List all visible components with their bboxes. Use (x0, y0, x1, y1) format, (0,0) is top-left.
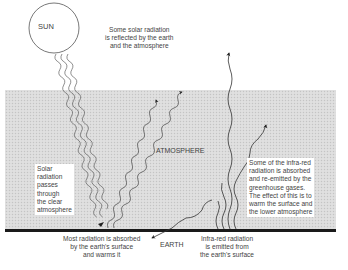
atmosphere-label: ATMOSPHERE (156, 147, 205, 155)
passes-line: atmosphere (37, 206, 72, 214)
sun-label: SUN (38, 22, 54, 31)
passes-line: Solar (37, 165, 72, 173)
passes-line: radiation (37, 173, 72, 181)
passes-line: through (37, 190, 72, 198)
greenhouse-line: and re-emitted by the (249, 175, 312, 183)
greenhouse-line: The effect of this is to (249, 192, 312, 200)
greenhouse-line: greenhouse gases. (249, 184, 312, 192)
greenhouse-line: the lower atmosphere (249, 208, 312, 216)
reflected-line: is reflected by the earth (105, 34, 174, 42)
passes-line: the clear (37, 198, 72, 206)
radiation-arrows (0, 0, 348, 270)
greenhouse-line: Some of the infra-red (249, 159, 312, 167)
absorbed-line: by the earth's surface (63, 243, 140, 251)
earth-label: EARTH (160, 241, 184, 249)
greenhouse-line: radiation is absorbed (249, 167, 312, 175)
infrared-line: Infra-red radiation (200, 235, 254, 243)
reflected-line: and the atmosphere (105, 42, 174, 50)
reflected-caption: Some solar radiation is reflected by the… (105, 26, 174, 51)
absorbed-line: Most radiation is absorbed (63, 235, 140, 243)
infrared-line: is emitted from (200, 243, 254, 251)
absorbed-caption: Most radiation is absorbed by the earth'… (63, 235, 140, 260)
greenhouse-line: warm the surface and (249, 200, 312, 208)
greenhouse-caption: Some of the infra-red radiation is absor… (247, 158, 314, 217)
passes-caption: Solar radiation passes through the clear… (35, 164, 74, 215)
infrared-caption: Infra-red radiation is emitted from the … (200, 235, 254, 260)
passes-line: passes (37, 181, 72, 189)
reflected-line: Some solar radiation (105, 26, 174, 34)
absorbed-line: and warms it (63, 251, 140, 259)
sun-icon (29, 3, 79, 53)
infrared-line: the earth's surface (200, 251, 254, 259)
